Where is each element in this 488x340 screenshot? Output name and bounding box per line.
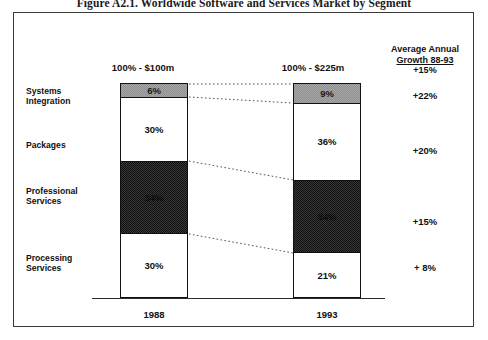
growth-value-processing-services: + 8%: [366, 262, 484, 273]
bar-header-1988: 100% - $100m: [88, 62, 198, 73]
segment-value: 9%: [320, 88, 334, 99]
category-label-line1: Processing: [26, 253, 118, 263]
growth-header-line2: Growth 88-93: [366, 55, 484, 66]
category-label-line1: Professional: [26, 186, 118, 196]
category-label-packages: Packages: [26, 140, 118, 150]
growth-total-value: +15%: [366, 65, 484, 76]
x-tick-label-1988: 1988: [114, 309, 194, 320]
segment-value: 21%: [317, 270, 336, 281]
category-label-line2: Services: [26, 196, 118, 206]
segment-value: 30%: [144, 124, 163, 135]
stacked-bar-1988[interactable]: 6% 30% 34% 30%: [120, 83, 188, 298]
growth-header-line1: Average Annual: [366, 44, 484, 55]
bar-header-1993: 100% - $225m: [248, 62, 378, 73]
baseline-axis: [92, 298, 385, 299]
category-label-line1: Packages: [26, 140, 118, 150]
category-label-processing-services: Processing Services: [26, 253, 118, 273]
segment-value: 30%: [144, 260, 163, 271]
segment-1993-packages[interactable]: 36%: [294, 103, 360, 180]
segment-1988-processing-services[interactable]: 30%: [121, 233, 187, 297]
segment-1993-systems-integration[interactable]: 9%: [294, 84, 360, 103]
growth-value-systems-integration: +22%: [366, 90, 484, 101]
segment-1993-processing-services[interactable]: 21%: [294, 252, 360, 297]
category-label-systems-integration: Systems Integration: [26, 86, 118, 106]
category-label-line2: Integration: [26, 96, 118, 106]
category-label-line2: Services: [26, 263, 118, 273]
segment-1988-systems-integration[interactable]: 6%: [121, 84, 187, 97]
figure-page: Figure A2.1. Worldwide Software and Serv…: [0, 0, 488, 340]
segment-1988-packages[interactable]: 30%: [121, 97, 187, 161]
segment-value: 34%: [144, 192, 163, 203]
growth-value-packages: +20%: [366, 145, 484, 156]
segment-1988-professional-services[interactable]: 34%: [121, 161, 187, 233]
segment-value: 34%: [317, 211, 336, 222]
category-label-professional-services: Professional Services: [26, 186, 118, 206]
segment-1993-professional-services[interactable]: 34%: [294, 180, 360, 252]
x-tick-label-1993: 1993: [287, 309, 367, 320]
category-label-line1: Systems: [26, 86, 118, 96]
growth-column-header: Average Annual Growth 88-93 +15%: [366, 44, 484, 76]
growth-value-professional-services: +15%: [366, 216, 484, 227]
segment-value: 6%: [147, 85, 161, 96]
stacked-bar-1993[interactable]: 9% 36% 34% 21%: [293, 83, 361, 298]
segment-value: 36%: [317, 136, 336, 147]
chart-plot-area: 100% - $100m 100% - $225m Average Annual…: [0, 0, 488, 340]
